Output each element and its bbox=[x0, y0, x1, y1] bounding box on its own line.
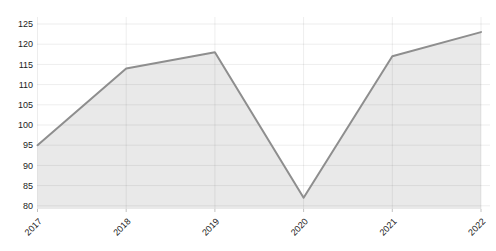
y-tick-label: 95 bbox=[23, 140, 33, 150]
x-tick-label: 2017 bbox=[23, 216, 44, 237]
area-chart: 8085909510010511011512012520172018201920… bbox=[0, 0, 496, 251]
x-tick-label: 2021 bbox=[377, 216, 398, 237]
x-tick-label: 2020 bbox=[289, 216, 310, 237]
y-tick-label: 125 bbox=[18, 19, 33, 29]
y-tick-label: 120 bbox=[18, 39, 33, 49]
area-fill bbox=[38, 32, 482, 209]
y-tick-label: 90 bbox=[23, 161, 33, 171]
y-tick-label: 110 bbox=[19, 80, 33, 90]
y-tick-label: 80 bbox=[23, 201, 33, 211]
x-tick-label: 2022 bbox=[466, 216, 487, 237]
y-tick-label: 115 bbox=[19, 60, 33, 70]
y-tick-label: 105 bbox=[18, 100, 33, 110]
y-tick-label: 100 bbox=[18, 120, 33, 130]
y-tick-label: 85 bbox=[23, 181, 33, 191]
chart-container: 8085909510010511011512012520172018201920… bbox=[0, 0, 496, 251]
x-tick-label: 2019 bbox=[200, 216, 221, 237]
x-tick-label: 2018 bbox=[111, 216, 132, 237]
